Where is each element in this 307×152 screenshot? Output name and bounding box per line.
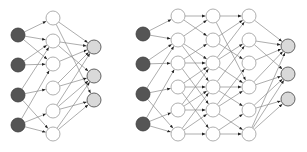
deep-network-nodes <box>136 9 295 141</box>
hidden-node <box>206 9 220 23</box>
input-node <box>136 117 150 131</box>
hidden-node <box>46 34 60 48</box>
input-node <box>11 58 25 72</box>
edge <box>25 127 46 132</box>
output-node <box>281 39 295 53</box>
hidden-node <box>242 56 256 70</box>
edge <box>60 42 87 46</box>
hidden-node <box>46 81 60 95</box>
edge <box>24 21 46 32</box>
hidden-node <box>46 127 60 141</box>
edge <box>255 49 281 60</box>
edge <box>57 82 90 128</box>
shallow-network-nodes <box>11 11 101 141</box>
hidden-node <box>242 80 256 94</box>
input-node <box>136 27 150 41</box>
hidden-node <box>171 56 185 70</box>
edge <box>219 20 243 36</box>
hidden-node <box>242 127 256 141</box>
edge <box>256 76 281 84</box>
hidden-node <box>171 33 185 47</box>
edge <box>254 104 282 129</box>
edge <box>23 39 47 59</box>
edge <box>22 47 49 89</box>
hidden-node <box>206 56 220 70</box>
edge <box>253 80 284 128</box>
edge <box>25 89 46 93</box>
edge <box>254 79 282 105</box>
hidden-node <box>171 80 185 94</box>
edge <box>21 71 49 119</box>
hidden-node <box>171 9 185 23</box>
edge <box>255 20 283 41</box>
edge <box>217 22 244 57</box>
hidden-node <box>206 80 220 94</box>
input-node <box>11 28 25 42</box>
input-node <box>11 88 25 102</box>
hidden-node <box>46 57 60 71</box>
edge <box>59 50 87 61</box>
hidden-node <box>242 9 256 23</box>
output-node <box>87 69 101 83</box>
input-node <box>11 118 25 132</box>
edge <box>149 44 172 60</box>
edge <box>256 41 281 45</box>
edge <box>150 63 171 64</box>
edge <box>25 114 47 123</box>
hidden-node <box>46 11 60 25</box>
output-node <box>281 92 295 106</box>
edge <box>147 46 174 88</box>
edge <box>149 19 171 30</box>
hidden-node <box>206 103 220 117</box>
input-node <box>136 87 150 101</box>
edge <box>25 36 46 40</box>
edge <box>25 64 46 65</box>
edge <box>146 70 174 118</box>
output-node <box>87 93 101 107</box>
hidden-node <box>46 104 60 118</box>
hidden-node <box>206 127 220 141</box>
output-node <box>281 67 295 81</box>
edge <box>150 126 171 132</box>
edge <box>150 88 171 92</box>
hidden-node <box>242 103 256 117</box>
hidden-node <box>171 103 185 117</box>
edge <box>59 22 88 43</box>
edge <box>184 91 207 106</box>
hidden-node <box>171 127 185 141</box>
edge <box>150 35 171 39</box>
output-node <box>87 40 101 54</box>
neural-network-diagram <box>0 0 307 152</box>
edge <box>24 45 47 61</box>
hidden-node <box>206 33 220 47</box>
hidden-node <box>242 33 256 47</box>
input-node <box>136 57 150 71</box>
